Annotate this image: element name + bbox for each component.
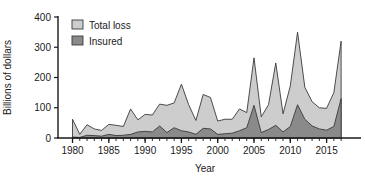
x-tick-label: 1995: [170, 145, 193, 156]
x-tick-label: 1980: [61, 145, 84, 156]
legend-label: Insured: [89, 36, 122, 47]
y-tick-label: 300: [34, 42, 51, 53]
y-tick-label: 0: [45, 133, 51, 144]
y-tick-label: 200: [34, 72, 51, 83]
x-axis-title: Year: [195, 163, 216, 174]
x-tick-label: 1990: [134, 145, 157, 156]
legend-item: Insured: [72, 36, 122, 47]
y-tick-label: 400: [34, 12, 51, 23]
x-tick-label: 1985: [98, 145, 121, 156]
legend-swatch: [72, 36, 83, 45]
chart-container: 0100200300400198019851990199520002005201…: [0, 0, 365, 176]
legend-swatch: [72, 20, 83, 29]
y-axis-title: Billions of dollars: [2, 40, 13, 115]
x-tick-label: 2015: [315, 145, 338, 156]
legend-label: Total loss: [89, 20, 131, 31]
loss-area-chart: 0100200300400198019851990199520002005201…: [0, 0, 365, 176]
y-tick-label: 100: [34, 102, 51, 113]
x-tick-label: 2000: [207, 145, 230, 156]
x-tick-label: 2005: [243, 145, 266, 156]
x-tick-label: 2010: [279, 145, 302, 156]
legend-item: Total loss: [72, 20, 131, 31]
